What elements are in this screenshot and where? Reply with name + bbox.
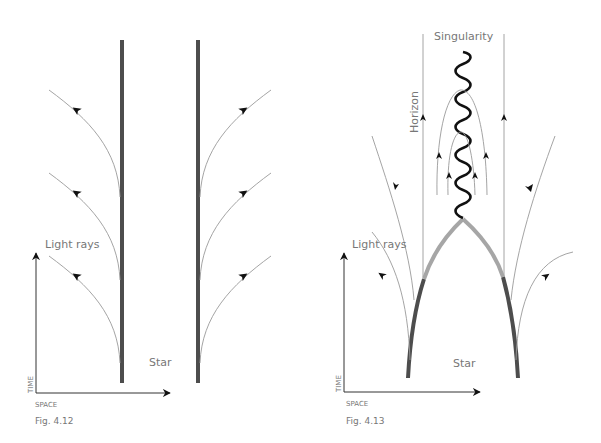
light-ray (372, 136, 414, 300)
arrow-icon (540, 272, 549, 281)
space-axis-label: SPACE (35, 401, 57, 409)
singularity-line (456, 52, 471, 218)
figure-4-12: Light rays Star TIME SPACE Fig. 4.12 (27, 40, 271, 426)
arrow-icon (238, 190, 248, 199)
horizon-label: Horizon (408, 91, 421, 133)
arrow-icon (238, 273, 248, 282)
light-rays-left (49, 90, 120, 363)
time-axis-label: TIME (27, 376, 35, 394)
light-ray (49, 256, 120, 363)
star-label: Star (149, 356, 172, 369)
star-surface-left-inside (424, 219, 463, 279)
light-ray (372, 232, 410, 360)
light-rays-label: Light rays (45, 238, 100, 251)
arrow-icon (393, 182, 399, 190)
arrow-icon (472, 172, 478, 179)
figure-caption: Fig. 4.13 (346, 416, 385, 426)
arrow-icon (483, 152, 489, 159)
arrow-icon (446, 172, 452, 179)
star-surface-left (408, 279, 424, 378)
space-axis-label: SPACE (346, 400, 368, 408)
arrow-icon (73, 107, 83, 116)
star-surface-right (503, 277, 518, 378)
star-label: Star (453, 357, 476, 370)
arrow-icon (525, 184, 533, 192)
light-ray (200, 256, 271, 363)
arrow-icon (378, 271, 387, 280)
time-axis-label: TIME (335, 375, 343, 393)
arrow-icon (73, 273, 83, 282)
arrow-icon (436, 152, 442, 159)
figure-4-13: Singularity Horizon Light rays Star TIME… (335, 30, 573, 426)
light-rays-right (200, 90, 271, 363)
arrow-icon (73, 190, 83, 199)
star-surface-right-inside (463, 219, 503, 277)
light-ray (516, 252, 573, 360)
diagram-canvas: Light rays Star TIME SPACE Fig. 4.12 (0, 0, 601, 443)
figure-caption: Fig. 4.12 (35, 416, 74, 426)
light-rays-label: Light rays (352, 238, 407, 251)
arrow-icon (238, 107, 248, 116)
singularity-label: Singularity (434, 30, 494, 43)
